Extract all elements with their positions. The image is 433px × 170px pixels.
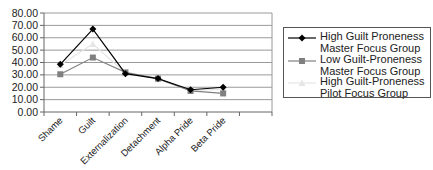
gridlines — [44, 13, 272, 112]
y-tick-label: 40.00 — [12, 56, 38, 68]
y-tick-label: 70.00 — [12, 19, 38, 31]
data-point — [57, 71, 63, 77]
y-tick-label: 30.00 — [12, 68, 38, 80]
y-tick-label: 10.00 — [12, 93, 38, 105]
data-point — [89, 40, 96, 47]
x-tick-label: Guilt — [76, 114, 98, 136]
x-tick-label: Shame — [36, 115, 65, 144]
series-lines — [57, 26, 227, 97]
y-tick-label: 80.00 — [12, 7, 38, 19]
y-tick-label: 0.00 — [18, 106, 39, 118]
data-point — [90, 55, 96, 61]
data-point — [220, 90, 226, 96]
y-tick-label: 60.00 — [12, 31, 38, 43]
series-0 — [57, 26, 227, 94]
legend-item-high-guilt-master: High Guilt Proneness Master Focus Group — [284, 31, 430, 53]
legend-item-low-guilt-master: Low Guilt-Proneness Master Focus Group — [284, 54, 430, 76]
square-marker-icon — [288, 57, 316, 65]
y-tick-label: 50.00 — [12, 44, 38, 56]
x-tick-label: Beta Pride — [188, 115, 227, 154]
x-axis: ShameGuiltExternalizationDetachmentAlpha… — [36, 112, 272, 166]
series-2 — [57, 40, 227, 93]
y-tick-label: 20.00 — [12, 81, 38, 93]
legend-label: Low Guilt-Proneness Master Focus Group — [320, 54, 422, 77]
legend-item-high-guilt-pilot: High Guilt-Proneness Pilot Focus Group — [284, 76, 430, 98]
legend-label: High Guilt Proneness Master Focus Group — [320, 31, 424, 54]
diamond-marker-icon — [288, 34, 316, 42]
y-axis: 0.0010.0020.0030.0040.0050.0060.0070.008… — [12, 7, 44, 118]
legend: High Guilt Proneness Master Focus Group … — [283, 27, 431, 98]
triangle-marker-icon — [288, 79, 316, 87]
legend-label: High Guilt-Proneness Pilot Focus Group — [320, 76, 425, 99]
